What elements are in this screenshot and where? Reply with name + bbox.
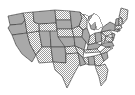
state-NE[interactable] (57, 29, 74, 37)
state-TN[interactable] (84, 49, 100, 53)
state-NM[interactable] (51, 47, 66, 63)
state-MT[interactable] (33, 10, 56, 24)
state-NH[interactable] (119, 18, 122, 25)
us-map-figure (0, 0, 135, 95)
state-ND[interactable] (55, 10, 71, 20)
state-RI[interactable] (118, 29, 120, 31)
state-SD[interactable] (56, 20, 72, 29)
us-states-map (0, 0, 135, 95)
